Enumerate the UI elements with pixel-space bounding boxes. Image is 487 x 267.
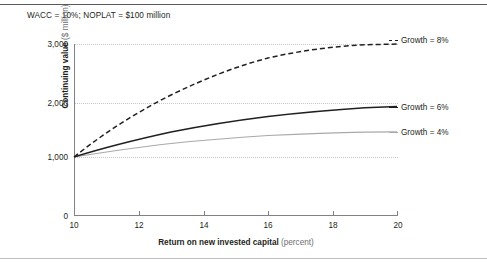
x-tick-label-18: 18 — [318, 221, 348, 230]
x-axis-title: Return on new invested capital (percent) — [74, 238, 398, 247]
series-label-growth-4: Growth = 4% — [401, 128, 449, 137]
series-curves — [74, 44, 398, 216]
x-tick-label-14: 14 — [189, 221, 219, 230]
plot-area — [74, 44, 398, 216]
x-axis-title-note: (percent) — [281, 238, 314, 247]
x-tick-label-12: 12 — [124, 221, 154, 230]
series-label-growth-8: Growth = 8% — [401, 36, 449, 45]
y-axis-title: Continuing value ($ million) — [61, 0, 70, 127]
y-tick-label-1000: 1,000 — [24, 153, 68, 162]
series-swatch-growth-4 — [389, 132, 398, 133]
bottom-rule — [0, 258, 487, 259]
series-curve-growth-8 — [74, 44, 397, 157]
chart-subtitle: WACC = 10%; NOPLAT = $100 million — [27, 11, 170, 20]
top-rule — [0, 4, 487, 5]
series-label-growth-6: Growth = 6% — [401, 103, 449, 112]
x-tick-label-20: 20 — [383, 221, 413, 230]
y-axis-title-note: ($ million) — [61, 4, 70, 40]
series-swatch-growth-6 — [389, 107, 398, 108]
series-swatch-growth-8 — [389, 40, 398, 41]
x-axis-title-bold: Return on new invested capital — [158, 238, 279, 247]
x-tick-label-16: 16 — [253, 221, 283, 230]
series-curve-growth-4 — [74, 132, 397, 157]
y-axis-title-bold: Continuing value — [61, 42, 70, 108]
x-tick-label-10: 10 — [59, 221, 89, 230]
y-tick-label-0: 0 — [24, 212, 68, 221]
exhibit-figure: WACC = 10%; NOPLAT = $100 million 3,000 … — [0, 0, 487, 267]
